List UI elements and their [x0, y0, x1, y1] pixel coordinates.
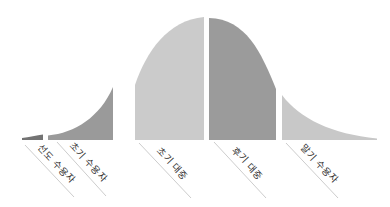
label-late-majority: 후기 대중: [230, 145, 266, 182]
segment-late-majority: [209, 18, 276, 140]
adoption-curve-diagram: 선도 수용자 초기 수용자 초기 대중 후기 대중 말기 수용자: [0, 0, 390, 207]
segment-early-adopters: [48, 87, 113, 140]
segment-laggards: [282, 95, 377, 140]
segment-innovators: [22, 135, 43, 141]
bell-curve-svg: 선도 수용자 초기 수용자 초기 대중 후기 대중 말기 수용자: [0, 0, 390, 207]
label-early-majority: 초기 대중: [155, 145, 191, 182]
segment-early-majority: [135, 17, 204, 140]
